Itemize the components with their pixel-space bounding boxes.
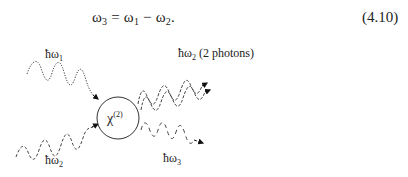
- output-photon-2-label: ħω2 (2 photons): [178, 46, 254, 62]
- output-photon-3-wave: [141, 123, 203, 144]
- output-photon-2-waves: [138, 80, 210, 110]
- dfg-photon-diagram: ħω1 ħω2 χ(2) ħω2 (2 photons) ħω3: [0, 0, 408, 177]
- input-photon-1-wave: [27, 61, 98, 99]
- output-photon-3-label: ħω3: [163, 151, 181, 167]
- input-photon-1-label: ħω1: [45, 47, 63, 63]
- input-photon-2-label: ħω2: [45, 153, 63, 169]
